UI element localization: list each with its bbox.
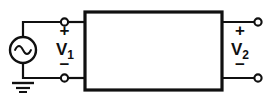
two-port-network-box bbox=[85, 12, 222, 90]
input-voltage-subscript: 1 bbox=[67, 48, 74, 62]
output-voltage-subscript: 2 bbox=[242, 48, 249, 62]
input-plus-sign: + bbox=[60, 21, 70, 40]
output-voltage-symbol: V bbox=[231, 40, 243, 59]
input-voltage-symbol: V bbox=[56, 40, 68, 59]
output-terminal-positive bbox=[254, 18, 261, 25]
output-terminal-negative bbox=[254, 74, 261, 81]
input-voltage-label: V1 bbox=[56, 40, 74, 62]
wire-source-bottom bbox=[23, 63, 61, 78]
wire-source-top bbox=[23, 22, 61, 37]
input-terminal-negative bbox=[61, 74, 68, 81]
output-voltage-label: V2 bbox=[231, 40, 249, 62]
output-plus-sign: + bbox=[235, 21, 245, 40]
circuit-diagram: + − V1 + − V2 bbox=[0, 0, 271, 109]
